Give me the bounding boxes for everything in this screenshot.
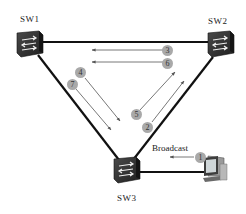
switch-sw2[interactable] — [208, 31, 234, 57]
step-3-badge: 3 — [162, 45, 173, 56]
switch-sw3[interactable] — [114, 157, 140, 183]
switch-sw1[interactable] — [17, 31, 43, 57]
broadcast-storm-diagram: SW1 SW2 SW3 Broadcast 1 2 3 4 5 6 7 — [0, 0, 246, 214]
step-2-badge: 2 — [142, 122, 153, 133]
sw2-label: SW2 — [208, 16, 228, 26]
step-4-badge: 4 — [75, 67, 86, 78]
pc-computer-icon[interactable] — [203, 156, 227, 182]
arrow-step-4 — [85, 78, 120, 121]
step-5-badge: 5 — [131, 109, 142, 120]
sw1-label: SW1 — [20, 14, 40, 24]
arrow-step-5 — [140, 72, 175, 110]
step-7-badge: 7 — [67, 79, 78, 90]
sw3-label: SW3 — [117, 193, 137, 203]
step-6-badge: 6 — [162, 58, 173, 69]
step-1-badge: 1 — [195, 152, 206, 163]
diagram-canvas — [0, 0, 246, 214]
broadcast-label: Broadcast — [152, 143, 188, 153]
